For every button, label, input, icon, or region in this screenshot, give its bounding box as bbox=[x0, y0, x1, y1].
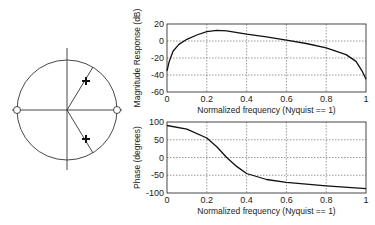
y-tick-label: 100 bbox=[149, 117, 164, 127]
y-tick-label: 20 bbox=[154, 19, 164, 29]
x-tick-label: 0 bbox=[164, 195, 169, 205]
x-tick-label: 0.8 bbox=[320, 94, 333, 104]
y-tick-label: -20 bbox=[151, 53, 164, 63]
x-tick-label: 0 bbox=[164, 94, 169, 104]
x-tick-label: 0.8 bbox=[320, 195, 333, 205]
phase-curve bbox=[167, 126, 366, 189]
phase-plot: 00.20.40.60.81100500-50-100Normalized fr… bbox=[132, 117, 369, 216]
x-tick-label: 0.6 bbox=[280, 195, 293, 205]
y-axis-label: Magnitude Response (dB) bbox=[132, 8, 142, 107]
x-tick-label: 0.4 bbox=[240, 94, 253, 104]
y-tick-label: -50 bbox=[151, 170, 164, 180]
y-tick-label: 0 bbox=[159, 153, 164, 163]
zero-marker bbox=[14, 107, 21, 114]
x-tick-label: 0.2 bbox=[201, 195, 214, 205]
y-tick-label: -100 bbox=[146, 188, 164, 198]
x-tick-label: 0.6 bbox=[280, 94, 293, 104]
x-tick-label: 0.2 bbox=[201, 94, 214, 104]
y-tick-label: -40 bbox=[151, 70, 164, 80]
pole-zero-plot bbox=[12, 48, 122, 170]
x-tick-label: 1 bbox=[363, 94, 368, 104]
x-axis-label: Normalized frequency (Nyquist == 1) bbox=[197, 206, 336, 216]
magnitude-curve bbox=[167, 30, 366, 79]
y-tick-label: 50 bbox=[154, 135, 164, 145]
y-axis-label: Phase (degrees) bbox=[132, 126, 142, 189]
figure: 00.20.40.60.81200-20-40-60Normalized fre… bbox=[0, 0, 375, 225]
x-tick-label: 0.4 bbox=[240, 195, 253, 205]
magnitude-plot: 00.20.40.60.81200-20-40-60Normalized fre… bbox=[132, 8, 369, 115]
y-tick-label: 0 bbox=[159, 36, 164, 46]
x-axis-label: Normalized frequency (Nyquist == 1) bbox=[197, 105, 336, 115]
pole-radius-lower bbox=[67, 110, 93, 153]
x-tick-label: 1 bbox=[363, 195, 368, 205]
zero-marker bbox=[114, 107, 121, 114]
y-tick-label: -60 bbox=[151, 87, 164, 97]
pole-radius-upper bbox=[67, 67, 93, 110]
